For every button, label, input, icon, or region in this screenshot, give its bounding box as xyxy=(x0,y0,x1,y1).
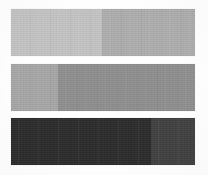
band-dark-segment-right xyxy=(151,118,195,165)
band-dark xyxy=(11,118,195,165)
band-light xyxy=(11,9,195,56)
band-light-segment-right xyxy=(102,9,195,56)
band-mid-segment-left xyxy=(11,64,58,111)
image-canvas xyxy=(0,0,208,175)
band-mid-segment-right xyxy=(58,64,195,111)
band-dark-segment-left xyxy=(11,118,151,165)
band-light-segment-left xyxy=(11,9,102,56)
band-mid xyxy=(11,64,195,111)
